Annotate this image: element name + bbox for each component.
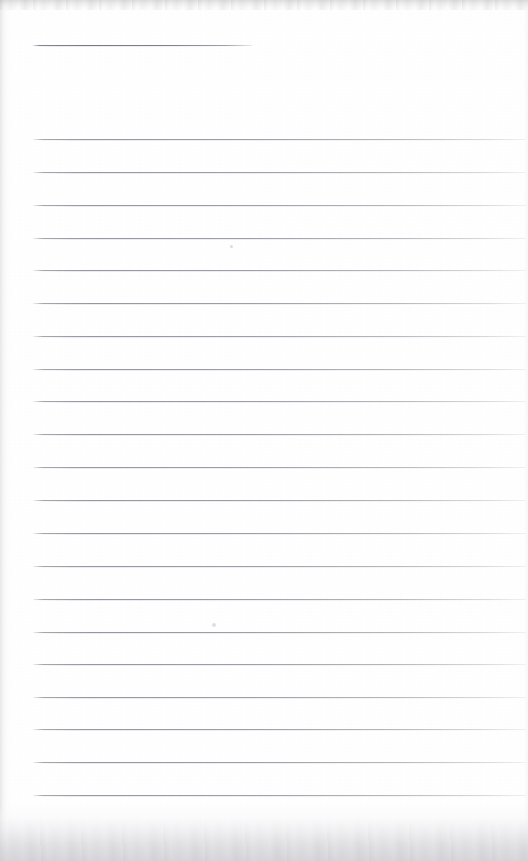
ruled-line xyxy=(33,401,526,402)
ruled-line xyxy=(33,369,526,370)
ruled-line xyxy=(33,270,526,271)
ruled-line xyxy=(33,599,526,600)
ruled-line xyxy=(33,303,526,304)
ruled-line xyxy=(33,697,526,698)
heading-rule xyxy=(33,45,252,46)
ruled-line xyxy=(33,566,526,567)
ruled-line xyxy=(33,664,526,665)
scan-edge-shadow-right xyxy=(521,0,528,861)
ruled-line xyxy=(33,500,526,501)
scanned-page xyxy=(0,0,528,861)
scan-edge-mottle-top xyxy=(0,0,528,10)
ruled-line xyxy=(33,205,526,206)
ruled-line xyxy=(33,139,526,140)
ruled-line xyxy=(33,172,526,173)
ruled-line xyxy=(33,762,526,763)
ruled-line xyxy=(33,533,526,534)
ruled-line xyxy=(33,729,526,730)
ruled-line xyxy=(33,632,526,633)
scan-edge-shadow-left xyxy=(0,0,11,861)
ruled-line xyxy=(33,434,526,435)
speck-upper-icon xyxy=(230,245,233,248)
ruled-line xyxy=(33,238,526,239)
ruled-line xyxy=(33,795,526,796)
scan-edge-mottle-bottom xyxy=(0,819,528,861)
ruled-line xyxy=(33,467,526,468)
paper-surface xyxy=(0,0,528,861)
speck-lower-icon xyxy=(212,623,216,627)
ruled-line xyxy=(33,336,526,337)
